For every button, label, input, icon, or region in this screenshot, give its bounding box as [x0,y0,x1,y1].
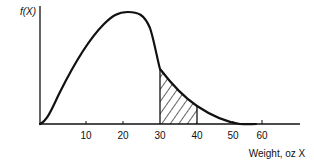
tick-label-50: 50 [227,130,239,141]
tick-label-20: 20 [117,130,129,141]
density-curve [40,12,256,124]
x-axis-label: Weight, oz X [249,148,306,159]
tick-label-10: 10 [80,130,92,141]
density-chart: 10 20 30 40 50 60 f(X) Weight, oz X [0,0,314,162]
tick-label-30: 30 [154,130,166,141]
y-axis-label: f(X) [20,6,36,17]
tick-label-40: 40 [191,130,203,141]
tick-label-60: 60 [256,130,268,141]
